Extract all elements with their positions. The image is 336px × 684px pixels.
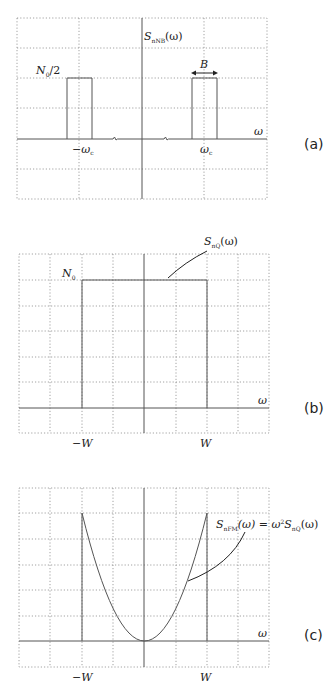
panel-b-tick-neg-w: −W (72, 437, 94, 450)
panel-b-level-label: N0 (61, 267, 76, 281)
noise-spectra-figure: SnNB(ω) N0/2 B ω −ωc ωc (a) SnQ(ω) N0 ω (0, 0, 336, 684)
panel-c-curve-label: SnFM(ω) = ω2SnQ(ω) (216, 518, 318, 532)
panel-c-tag: (c) (304, 627, 323, 643)
panel-a-bandwidth-label: B (199, 58, 208, 71)
panel-c: SnFM(ω) = ω2SnQ(ω) ω −W W (c) (19, 488, 323, 684)
panel-b-leader-line (168, 251, 207, 278)
panel-a-tick-neg-wc: −ωc (72, 143, 94, 156)
bandwidth-arrow-icon (191, 71, 218, 76)
panel-b-tag: (b) (304, 400, 324, 416)
panel-a-right-pulse (192, 78, 217, 139)
panel-a-ylabel: SnNB(ω) (144, 30, 183, 44)
panel-c-leader-line (188, 532, 245, 581)
panel-c-tick-neg-w: −W (72, 671, 94, 684)
panel-b-tick-w: W (200, 437, 213, 450)
panel-a-left-pulse (67, 78, 92, 139)
panel-a-xlabel: ω (254, 125, 263, 138)
panel-c-xlabel: ω (258, 627, 267, 640)
panel-a: SnNB(ω) N0/2 B ω −ωc ωc (a) (17, 18, 324, 199)
panel-b-curve-label: SnQ(ω) (204, 235, 238, 249)
panel-a-tag: (a) (304, 136, 324, 152)
panel-a-tick-wc: ωc (200, 143, 213, 156)
panel-a-level-label: N0/2 (35, 64, 60, 78)
panel-b-xlabel: ω (258, 394, 267, 407)
panel-c-tick-w: W (200, 671, 213, 684)
panel-b: SnQ(ω) N0 ω −W W (b) (19, 235, 324, 450)
